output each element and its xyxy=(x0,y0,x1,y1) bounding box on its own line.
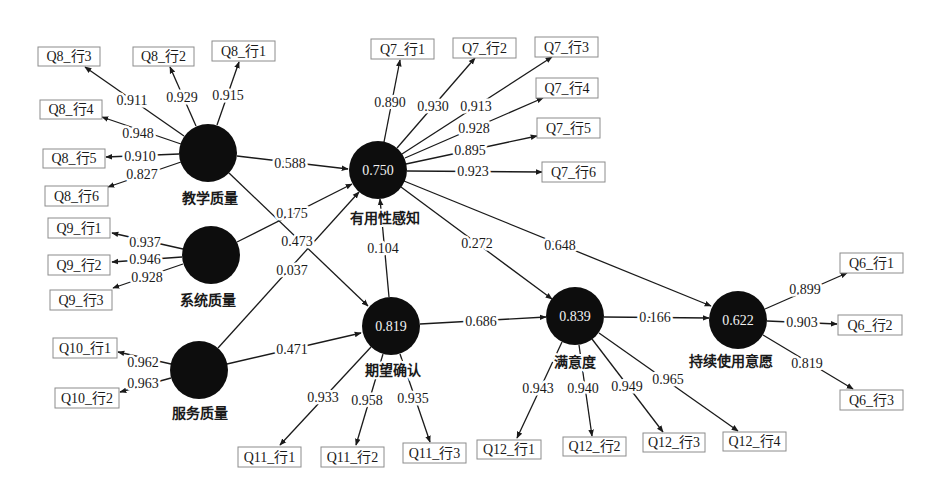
indicator-label: Q8_行5 xyxy=(51,151,96,166)
construct-name: 满意度 xyxy=(554,354,597,370)
indicator-label: Q8_行2 xyxy=(141,49,186,64)
indicator-box: Q12_行1 xyxy=(477,440,541,459)
construct-name: 期望确认 xyxy=(365,362,422,378)
indicator-label: Q12_行1 xyxy=(483,442,535,457)
loading-value: 0.935 xyxy=(397,391,429,406)
indicator-box: Q10_行2 xyxy=(55,388,119,408)
loading-value: 0.903 xyxy=(786,315,818,330)
indicator-box: Q11_行2 xyxy=(321,447,384,467)
loading-value: 0.910 xyxy=(124,149,156,164)
indicator-label: Q7_行4 xyxy=(544,81,589,96)
indicator-box: Q7_行5 xyxy=(537,118,600,138)
construct-node-system-quality: 系统质量 xyxy=(180,226,240,308)
loading-value: 0.928 xyxy=(458,121,490,136)
indicator-box: Q6_行3 xyxy=(840,390,903,410)
indicator-box: Q12_行4 xyxy=(723,432,786,451)
indicator-box: Q8_行5 xyxy=(43,149,105,168)
indicator-label: Q10_行1 xyxy=(59,341,111,356)
indicator-label: Q7_行6 xyxy=(551,165,596,180)
loading-value: 0.930 xyxy=(417,99,449,114)
indicator-box: Q8_行1 xyxy=(212,41,275,61)
loading-value: 0.827 xyxy=(126,167,158,182)
indicator-box: Q10_行1 xyxy=(53,338,117,358)
construct-node-expectation-confirmation: 0.819 期望确认 xyxy=(362,297,422,378)
loading-value: 0.943 xyxy=(522,381,554,396)
indicator-box: Q7_行3 xyxy=(535,37,598,57)
loading-value: 0.933 xyxy=(307,390,339,405)
indicator-box: Q6_行2 xyxy=(838,315,902,335)
indicator-label: Q8_行1 xyxy=(221,44,266,59)
loading-value: 0.899 xyxy=(789,282,821,297)
construct-name: 有用性感知 xyxy=(350,210,420,226)
indicator-label: Q7_行5 xyxy=(546,121,591,136)
loading-value: 0.965 xyxy=(652,372,684,387)
loading-value: 0.913 xyxy=(460,99,492,114)
indicator-label: Q6_行2 xyxy=(847,318,892,333)
indicator-label: Q6_行1 xyxy=(849,256,894,271)
construct-node-teaching-quality: 教学质量 xyxy=(179,124,238,206)
loading-value: 0.962 xyxy=(127,355,159,370)
indicator-label: Q11_行1 xyxy=(244,450,296,465)
indicator-box: Q12_行2 xyxy=(563,437,626,456)
indicator-label: Q8_行3 xyxy=(46,49,91,64)
indicator-label: Q7_行2 xyxy=(462,41,507,56)
indicator-label: Q10_行2 xyxy=(61,391,113,406)
indicator-label: Q8_行6 xyxy=(54,189,99,204)
loading-value: 0.937 xyxy=(129,235,161,250)
path-coefficient: 0.471 xyxy=(276,342,308,357)
loading-value: 0.928 xyxy=(131,270,163,285)
indicator-label: Q9_行2 xyxy=(56,258,101,273)
indicator-label: Q12_行3 xyxy=(648,435,700,450)
indicator-label: Q12_行2 xyxy=(568,439,620,454)
indicator-box: Q8_行2 xyxy=(133,47,194,66)
indicator-box: Q7_行1 xyxy=(371,39,434,59)
indicator-box: Q7_行6 xyxy=(542,162,605,182)
loading-value: 0.946 xyxy=(129,252,161,267)
loading-value: 0.958 xyxy=(351,393,383,408)
path-coefficient: 0.104 xyxy=(367,241,399,256)
indicator-box: Q7_行4 xyxy=(536,78,598,98)
r-squared: 0.622 xyxy=(722,313,754,328)
indicator-label: Q11_行2 xyxy=(327,450,379,465)
path-coefficient: 0.037 xyxy=(276,263,308,278)
path-coefficient: 0.686 xyxy=(465,314,497,329)
construct-name: 服务质量 xyxy=(172,405,228,421)
r-squared: 0.819 xyxy=(375,319,407,334)
loading-value: 0.911 xyxy=(117,93,148,108)
indicator-label: Q9_行1 xyxy=(56,221,101,236)
path-coefficient: 0.175 xyxy=(276,206,308,221)
indicator-box: Q12_行3 xyxy=(643,433,705,452)
construct-node-satisfaction: 0.839 满意度 xyxy=(546,287,604,370)
construct-node-service-quality: 服务质量 xyxy=(170,341,228,421)
construct-name: 教学质量 xyxy=(182,190,238,206)
loading-value: 0.940 xyxy=(567,381,599,396)
indicator-box: Q9_行2 xyxy=(48,255,110,275)
indicator-label: Q12_行4 xyxy=(728,434,780,449)
indicator-label: Q8_行4 xyxy=(48,102,93,117)
loading-value: 0.929 xyxy=(166,90,198,105)
loading-value: 0.948 xyxy=(122,126,154,141)
indicator-box: Q8_行4 xyxy=(40,100,102,119)
loading-value: 0.819 xyxy=(791,356,823,371)
indicator-box: Q11_行1 xyxy=(238,447,301,467)
loading-value: 0.963 xyxy=(127,376,159,391)
construct-name: 系统质量 xyxy=(180,292,236,308)
indicator-label: Q6_行3 xyxy=(849,393,894,408)
indicator-box: Q9_行1 xyxy=(48,218,110,238)
path-coefficient: 0.473 xyxy=(281,234,313,249)
construct-name: 持续使用意愿 xyxy=(689,353,773,369)
path-edges xyxy=(218,156,711,364)
indicator-box: Q9_行3 xyxy=(50,290,112,310)
indicator-label: Q7_行3 xyxy=(544,40,589,55)
indicator-box: Q6_行1 xyxy=(840,253,903,273)
loading-value: 0.949 xyxy=(611,379,643,394)
indicator-box: Q8_行3 xyxy=(38,47,100,66)
path-coefficients: 0.588 0.175 0.037 0.473 0.471 0.104 0.27… xyxy=(274,156,671,357)
path-coefficient: 0.648 xyxy=(544,238,576,253)
indicator-label: Q11_行3 xyxy=(409,446,461,461)
r-squared: 0.750 xyxy=(362,163,394,178)
loading-value: 0.923 xyxy=(457,164,489,179)
indicator-box: Q7_行2 xyxy=(453,38,516,58)
indicator-label: Q9_行3 xyxy=(58,293,103,308)
sem-path-diagram: Q8_行1 Q8_行2 Q8_行3 Q8_行4 Q8_行5 Q8_行6 Q9_行… xyxy=(0,0,936,490)
